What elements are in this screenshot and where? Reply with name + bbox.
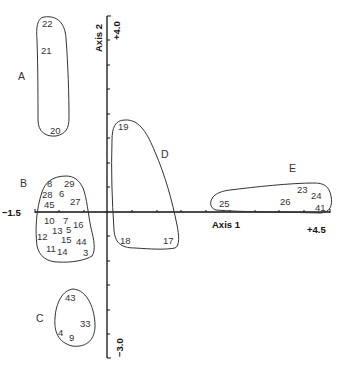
point-label: 12 (37, 231, 48, 242)
point-label: 22 (42, 18, 53, 29)
point-label: 6 (59, 188, 64, 199)
point-label: 16 (73, 219, 84, 230)
point-label: 19 (118, 121, 129, 132)
point-label: 26 (280, 196, 291, 207)
group-b-points: 8 29 28 6 45 27 10 7 16 13 5 12 15 44 11… (37, 178, 88, 258)
point-label: 43 (65, 292, 76, 303)
y-axis-title: Axis 2 (93, 24, 104, 52)
point-label: 23 (297, 184, 308, 195)
point-label: 17 (163, 235, 174, 246)
group-a-points: 22 21 20 (41, 18, 61, 136)
group-d-points: 19 18 17 (118, 121, 174, 246)
point-label: 20 (50, 125, 61, 136)
point-label: 44 (76, 236, 87, 247)
group-label-d: D (161, 148, 169, 160)
group-label-a: A (18, 70, 25, 82)
group-label-c: C (36, 312, 44, 324)
point-label: 41 (315, 202, 326, 213)
point-label: 14 (57, 246, 68, 257)
group-label-e: E (289, 162, 296, 174)
x-axis-min-label: −1.5 (2, 207, 21, 218)
point-label: 3 (83, 247, 88, 258)
ordination-plot: Axis 2 +4.0 −3.0 Axis 1 +4.5 −1.5 A B C … (0, 0, 341, 374)
point-label: 27 (70, 196, 81, 207)
point-label: 33 (80, 318, 91, 329)
y-axis-min-label: −3.0 (114, 338, 125, 357)
point-label: 11 (46, 243, 56, 254)
x-axis-max-label: +4.5 (307, 224, 326, 235)
point-label: 21 (41, 45, 52, 56)
group-c-points: 43 33 4 9 (58, 292, 91, 343)
group-e-points: 25 26 23 24 41 (219, 184, 326, 213)
point-label: 45 (44, 199, 55, 210)
y-axis-max-label: +4.0 (111, 21, 122, 40)
group-label-b: B (20, 177, 27, 189)
group-a-envelope (37, 17, 69, 136)
point-label: 25 (219, 198, 230, 209)
point-label: 24 (311, 190, 322, 201)
point-label: 18 (120, 235, 131, 246)
point-label: 29 (64, 178, 75, 189)
point-label: 9 (69, 332, 74, 343)
point-label: 8 (47, 178, 52, 189)
point-label: 15 (61, 234, 72, 245)
point-label: 4 (58, 327, 63, 338)
x-axis-title: Axis 1 (212, 219, 241, 230)
group-d-envelope (112, 120, 179, 249)
